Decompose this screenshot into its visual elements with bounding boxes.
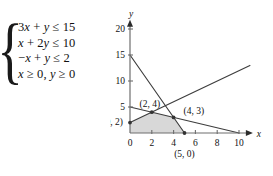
feasible-region-layer <box>130 112 185 133</box>
vertex-dot <box>172 116 176 120</box>
vertex-label: (4, 3) <box>184 106 205 117</box>
x-tick-label: 2 <box>149 138 154 148</box>
inequality-row-1: 3x + y ≤ 15 <box>18 21 75 34</box>
vertex-dot <box>183 131 187 135</box>
x-tick-label: 4 <box>171 138 176 148</box>
vertex-label: (0, 2) <box>110 117 123 128</box>
plot-svg: 02468105101520 (0, 2)(2, 4)(4, 3)(5, 0) … <box>110 0 273 176</box>
inequality-row-3: −x + y ≤ 2 <box>18 52 75 65</box>
coordinate-graph: 02468105101520 (0, 2)(2, 4)(4, 3)(5, 0) … <box>110 0 273 176</box>
x-axis-arrowhead <box>246 130 253 136</box>
inequality-list: 3x + y ≤ 15 x + 2y ≤ 10 −x + y ≤ 2 x ≥ 0… <box>16 12 75 90</box>
x-tick-label: 10 <box>234 138 244 148</box>
y-axis-arrowhead <box>127 20 133 27</box>
inequality-row-4: x ≥ 0, y ≥ 0 <box>18 68 75 81</box>
inequality-row-2: x + 2y ≤ 10 <box>18 37 75 50</box>
x-tick-label: 6 <box>193 138 198 148</box>
vertex-label: (5, 0) <box>174 149 195 160</box>
y-axis-label: y <box>128 9 134 19</box>
y-tick-label: 5 <box>120 102 125 112</box>
x-tick-label: 0 <box>128 138 133 148</box>
inequality-system: { 3x + y ≤ 15 x + 2y ≤ 10 −x + y ≤ 2 x ≥… <box>4 12 112 90</box>
vertex-dot <box>150 110 154 114</box>
x-tick-label: 8 <box>215 138 220 148</box>
system-brace: { <box>6 12 15 90</box>
y-tick-label: 10 <box>116 76 126 86</box>
x-axis-label: x <box>256 129 262 139</box>
y-tick-label: 20 <box>116 24 126 34</box>
y-tick-label: 15 <box>116 50 126 60</box>
vertex-label: (2, 4) <box>140 99 161 110</box>
feasible-region <box>130 112 185 133</box>
vertex-dot <box>128 121 132 125</box>
figure-root: { 3x + y ≤ 15 x + 2y ≤ 10 −x + y ≤ 2 x ≥… <box>0 0 273 176</box>
